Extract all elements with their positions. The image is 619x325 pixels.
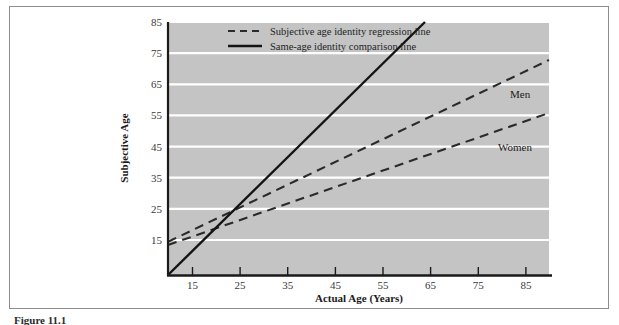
series-annotation-men: Men — [510, 88, 531, 100]
x-tick-label: 85 — [520, 279, 532, 291]
y-tick-label: 25 — [151, 203, 163, 215]
x-tick-label: 65 — [425, 279, 437, 291]
legend-label-comparison: Same-age identity comparison line — [270, 41, 416, 52]
x-tick-label: 45 — [330, 279, 342, 291]
series-annotation-women: Women — [498, 141, 532, 153]
x-axis-tick-labels: 15 25 35 45 55 65 75 85 — [187, 279, 532, 291]
y-tick-label: 85 — [151, 16, 163, 28]
x-tick-label: 75 — [473, 279, 485, 291]
y-axis-ticks: 85 75 65 55 45 35 25 15 — [151, 16, 163, 246]
x-axis-title: Actual Age (Years) — [315, 292, 403, 305]
y-tick-label: 75 — [151, 47, 163, 59]
figure-caption: Figure 11.1 — [14, 314, 66, 325]
plot-area-background — [168, 22, 549, 275]
x-tick-label: 35 — [282, 279, 294, 291]
y-tick-label: 45 — [151, 141, 163, 153]
y-tick-label: 55 — [151, 109, 163, 121]
x-tick-label: 55 — [378, 279, 390, 291]
x-tick-label: 15 — [187, 279, 199, 291]
y-tick-label: 35 — [151, 172, 163, 184]
legend-label-regression: Subjective age identity regression line — [270, 26, 431, 37]
y-axis-title: Subjective Age — [118, 113, 130, 182]
y-tick-label: 15 — [151, 234, 163, 246]
x-tick-label: 25 — [235, 279, 247, 291]
y-tick-label: 65 — [151, 78, 163, 90]
chart-canvas: Men Women Subjective age identity regres… — [0, 0, 619, 325]
